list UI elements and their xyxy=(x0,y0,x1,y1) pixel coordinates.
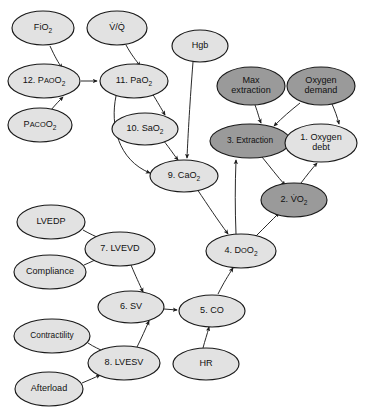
edge-vq-to-n11_pao2 xyxy=(126,45,140,66)
node-shape-hgb xyxy=(172,30,228,62)
edge-n10_sao2-to-n9_cao2 xyxy=(163,140,178,160)
node-shape-compliance xyxy=(14,255,86,289)
node-shape-n3_extract xyxy=(210,124,290,158)
node-shape-o2_demand xyxy=(287,67,355,105)
node-n3_extract[interactable]: 3. Extraction xyxy=(210,124,290,158)
node-shape-n11_pao2 xyxy=(100,64,168,98)
edge-n3_extract-to-n2_vo2 xyxy=(262,157,285,185)
node-shape-n10_sao2 xyxy=(112,113,178,145)
edge-afterload-to-n8_lvesv xyxy=(82,375,100,383)
node-shape-n2_vo2 xyxy=(261,183,327,217)
node-compliance[interactable]: Compliance xyxy=(14,255,86,289)
node-hr[interactable]: HR xyxy=(173,348,239,380)
node-n9_cao2[interactable]: 9. CaO2​ xyxy=(150,160,218,192)
edge-o2_demand-to-n3_extract xyxy=(274,103,300,126)
node-o2_demand[interactable]: Oxygendemand xyxy=(287,67,355,105)
node-n4_do2[interactable]: 4. DOO2​ xyxy=(206,234,276,268)
edge-n2_vo2-to-n1_o2_debt xyxy=(301,163,317,183)
edge-hgb-to-n9_cao2 xyxy=(187,62,193,158)
node-n6_sv[interactable]: 6. SV xyxy=(98,291,164,323)
node-n8_lvesv[interactable]: 8. LVESV xyxy=(88,346,160,380)
edge-n5_co-to-n4_do2 xyxy=(218,268,233,294)
node-layer: FiO2​V̇/Q̇Hgb12. PAOO2​11. PaO2​Maxextra… xyxy=(8,11,357,406)
node-afterload[interactable]: Afterload xyxy=(15,372,83,406)
node-shape-n8_lvesv xyxy=(88,346,160,380)
node-shape-hr xyxy=(173,348,239,380)
edge-n4_do2-to-n2_vo2 xyxy=(256,213,279,236)
edge-n11_pao2-to-n10_sao2 xyxy=(152,93,165,115)
node-shape-n6_sv xyxy=(98,291,164,323)
node-fio2[interactable]: FiO2​ xyxy=(12,11,74,45)
node-n1_o2_debt[interactable]: 1. Oxygendebt xyxy=(285,124,357,162)
node-shape-n12_pao2 xyxy=(8,64,80,98)
edge-n6_sv-to-n5_co xyxy=(164,309,177,310)
node-lvedp[interactable]: LVEDP xyxy=(17,205,85,239)
node-hgb[interactable]: Hgb xyxy=(172,30,228,62)
edge-n8_lvesv-to-n6_sv xyxy=(137,321,149,347)
edge-n7_lvevd-to-n6_sv xyxy=(131,265,143,292)
edge-max_extract-to-n3_extract xyxy=(255,105,261,123)
edge-hr-to-n5_co xyxy=(203,327,209,348)
node-shape-afterload xyxy=(15,372,83,406)
node-n7_lvevd[interactable]: 7. LVEVD xyxy=(85,232,155,266)
node-shape-lvedp xyxy=(17,205,85,239)
node-contractility[interactable]: Contractility xyxy=(14,319,90,353)
oxygen-delivery-flowchart: FiO2​V̇/Q̇Hgb12. PAOO2​11. PaO2​Maxextra… xyxy=(0,0,365,420)
node-shape-contractility xyxy=(14,319,90,353)
node-n11_pao2[interactable]: 11. PaO2​ xyxy=(100,64,168,98)
edge-n4_do2-to-n3_extract xyxy=(235,160,236,234)
node-shape-fio2 xyxy=(12,11,74,45)
edge-paco2-to-n12_pao2 xyxy=(51,97,63,110)
node-shape-n1_o2_debt xyxy=(285,124,357,162)
node-vq[interactable]: V̇/Q̇ xyxy=(87,11,147,45)
node-n12_pao2[interactable]: 12. PAOO2​ xyxy=(8,64,80,98)
node-shape-n7_lvevd xyxy=(85,232,155,266)
node-paco2[interactable]: PACOO2​ xyxy=(8,108,72,142)
edge-n9_cao2-to-n4_do2 xyxy=(197,189,228,234)
node-n10_sao2[interactable]: 10. SaO2​ xyxy=(112,113,178,145)
node-shape-n4_do2 xyxy=(206,234,276,268)
flowchart-canvas: FiO2​V̇/Q̇Hgb12. PAOO2​11. PaO2​Maxextra… xyxy=(0,0,365,420)
edge-o2_demand-to-n1_o2_debt xyxy=(332,104,339,124)
node-max_extract[interactable]: Maxextraction xyxy=(217,67,285,105)
node-n2_vo2[interactable]: 2. V̇O2​ xyxy=(261,183,327,217)
node-n5_co[interactable]: 5. CO xyxy=(179,295,245,327)
node-shape-vq xyxy=(87,11,147,45)
node-shape-n9_cao2 xyxy=(150,160,218,192)
node-shape-paco2 xyxy=(8,108,72,142)
node-shape-n5_co xyxy=(179,295,245,327)
node-shape-max_extract xyxy=(217,67,285,105)
